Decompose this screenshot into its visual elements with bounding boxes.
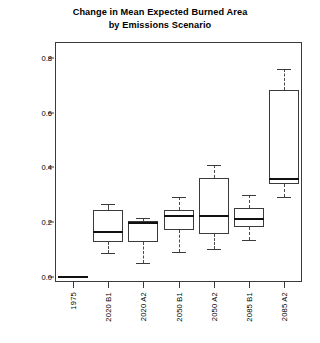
x-tick-mark: [143, 282, 144, 288]
box-median-line: [128, 222, 158, 224]
x-tick-mark: [214, 282, 215, 288]
box-median-line: [58, 276, 88, 278]
cap-upper: [101, 204, 115, 205]
figure-root: Change in Mean Expected Burned Area by E…: [0, 0, 320, 343]
box-iqr: [164, 210, 194, 230]
cap-upper: [172, 197, 186, 198]
x-tick-label: 2085 B1: [245, 292, 254, 322]
box-iqr: [93, 210, 123, 243]
cap-lower: [277, 197, 291, 198]
cap-lower: [136, 263, 150, 264]
box-median-line: [269, 178, 299, 180]
whisker-lower: [143, 242, 144, 262]
x-tick-label: 2050 A2: [210, 292, 219, 321]
x-tick-mark: [249, 282, 250, 288]
box-median-line: [93, 231, 123, 233]
chart-title: Change in Mean Expected Burned Area by E…: [0, 6, 320, 31]
cap-upper: [242, 195, 256, 196]
cap-upper: [207, 165, 221, 166]
cap-upper: [277, 69, 291, 70]
box-iqr: [128, 221, 158, 243]
y-tick-label: 0.8: [12, 54, 52, 63]
x-tick-label: 2085 A2: [280, 292, 289, 321]
x-tick-label: 2050 B1: [175, 292, 184, 322]
chart-title-line-2: by Emissions Scenario: [0, 19, 320, 32]
y-tick-label: 0.6: [12, 108, 52, 117]
whisker-lower: [179, 230, 180, 252]
cap-lower: [172, 252, 186, 253]
x-tick-mark: [284, 282, 285, 288]
whisker-lower: [108, 242, 109, 253]
y-tick-label: 0.4: [12, 163, 52, 172]
box-median-line: [199, 215, 229, 217]
whisker-upper: [179, 197, 180, 209]
box-iqr: [269, 90, 299, 184]
y-tick-label: 0.2: [12, 218, 52, 227]
whisker-upper: [214, 165, 215, 178]
x-tick-mark: [108, 282, 109, 288]
y-tick-label: 0.0: [12, 272, 52, 281]
cap-upper: [136, 218, 150, 219]
x-tick-mark: [179, 282, 180, 288]
x-tick-label: 1975: [69, 292, 78, 310]
cap-lower: [242, 240, 256, 241]
x-tick-label: 2020 B1: [104, 292, 113, 322]
whisker-lower: [214, 234, 215, 249]
box-iqr: [199, 178, 229, 235]
cap-lower: [207, 249, 221, 250]
cap-lower: [101, 253, 115, 254]
x-tick-mark: [73, 282, 74, 288]
whisker-lower: [249, 227, 250, 240]
whisker-upper: [249, 195, 250, 207]
whisker-upper: [284, 69, 285, 89]
chart-title-line-1: Change in Mean Expected Burned Area: [0, 6, 320, 19]
whisker-lower: [284, 184, 285, 198]
box-median-line: [234, 218, 264, 220]
x-tick-label: 2020 A2: [139, 292, 148, 321]
box-median-line: [164, 215, 194, 217]
